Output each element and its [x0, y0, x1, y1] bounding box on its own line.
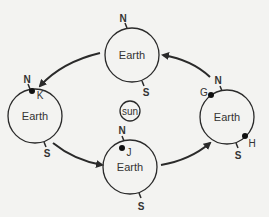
south-pole-label: S — [138, 201, 145, 212]
earth-label: Earth — [22, 110, 48, 122]
north-pole-label: N — [118, 125, 125, 136]
earth-bottom: Earth N S J — [103, 125, 157, 212]
earth-top: Earth N S — [105, 13, 159, 98]
south-pole-label: S — [235, 150, 242, 161]
earth-right: Earth N S G H — [200, 75, 256, 161]
north-pole-label: N — [23, 74, 30, 85]
orbit-arrow-bottom-right — [161, 143, 210, 165]
earth-left: Earth N S K — [8, 74, 62, 159]
point-g-label: G — [200, 87, 208, 98]
point-k-marker — [29, 88, 35, 94]
orbit-arrow-bottom-left — [53, 143, 102, 165]
point-h-marker — [242, 133, 248, 139]
earth-orbit-diagram: sun Earth N S Earth N S K Earth N S J Ea… — [0, 0, 269, 217]
orbit-arrow-top-right — [163, 55, 210, 77]
sun: sun — [120, 101, 140, 121]
north-pole-label: N — [214, 75, 221, 86]
north-pole-label: N — [119, 13, 126, 24]
south-pole-label: S — [44, 148, 51, 159]
point-h-label: H — [248, 138, 255, 149]
point-j-marker — [119, 145, 125, 151]
point-g-marker — [208, 92, 214, 98]
earth-label: Earth — [117, 161, 143, 173]
south-pole-label: S — [143, 87, 150, 98]
orbit-arrow-top-left — [40, 53, 100, 86]
earth-label: Earth — [119, 49, 145, 61]
point-j-label: J — [127, 147, 132, 158]
earth-label: Earth — [214, 111, 240, 123]
sun-label: sun — [122, 106, 138, 117]
point-k-label: K — [37, 90, 44, 101]
